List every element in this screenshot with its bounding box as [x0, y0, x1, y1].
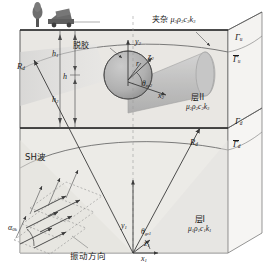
- label-alpha-0k: α0k: [8, 224, 17, 233]
- label-theta-xy2: θxy2: [142, 80, 152, 89]
- label-vibration-direction: 振动方向: [70, 252, 106, 261]
- label-axis-x2: x2: [158, 92, 164, 101]
- label-layer2: 层II μ2ρ2c2k3: [186, 94, 209, 112]
- label-axis-z1: z1: [144, 240, 150, 249]
- label-h1: h1: [52, 50, 58, 59]
- label-gamma-d: Γd: [235, 117, 242, 126]
- label-gamma-u: Γu: [235, 33, 242, 42]
- label-theta-gz1: θgz1: [141, 228, 151, 237]
- inclusion-far-cap: [196, 52, 214, 96]
- label-rd-left: Rd: [17, 62, 25, 71]
- figure-canvas: 夹杂 μ3ρ3c3k3 脱胶 层II μ2ρ2c2k3 层I μ1ρ1c1k1 …: [0, 0, 270, 274]
- label-inclusion: 夹杂 μ3ρ3c3k3: [152, 16, 195, 25]
- label-axis-y2: y2: [135, 38, 141, 47]
- label-rd-right: Rd: [190, 138, 198, 147]
- tree-icon: [33, 2, 43, 27]
- label-sh-wave: SH波: [25, 153, 46, 162]
- label-axis-z2: z2: [148, 53, 154, 62]
- label-gamma-u-bar: Γu: [233, 55, 240, 64]
- scenery-icons: [33, 2, 101, 27]
- truck-icon: [48, 9, 100, 28]
- label-layer1: 层I μ1ρ1c1k1: [188, 216, 211, 234]
- label-axis-x1: x1: [141, 255, 147, 264]
- label-gamma-d-bar: Γd: [233, 140, 240, 149]
- label-h: h: [63, 73, 67, 81]
- label-radius-r: r: [136, 60, 139, 68]
- label-axis-y1: y1: [121, 222, 127, 231]
- label-debonding: 脱胶: [73, 42, 89, 50]
- label-h2: h2: [52, 96, 58, 105]
